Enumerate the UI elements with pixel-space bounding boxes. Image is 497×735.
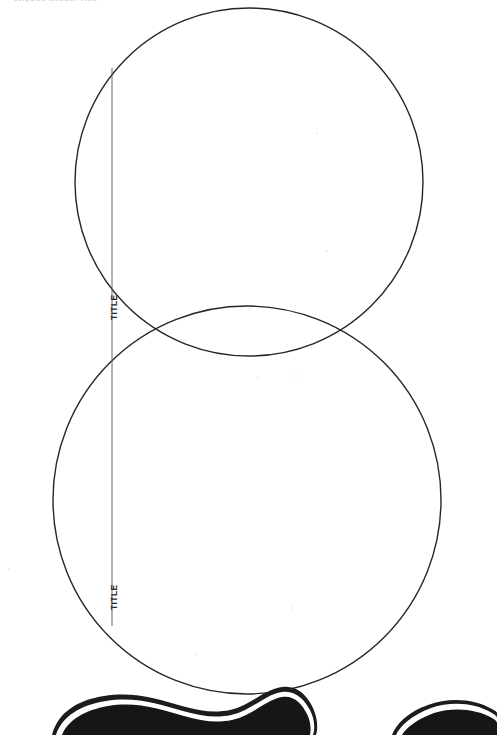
title-label-lower: TITLE	[110, 584, 119, 610]
organic-blob-shapes	[52, 687, 497, 735]
page-canvas: clipped header line	[0, 0, 497, 735]
title-label-upper: TITLE	[110, 294, 119, 320]
diagram-canvas	[0, 0, 497, 735]
upper-circle	[75, 8, 423, 356]
lower-circle	[53, 306, 441, 694]
